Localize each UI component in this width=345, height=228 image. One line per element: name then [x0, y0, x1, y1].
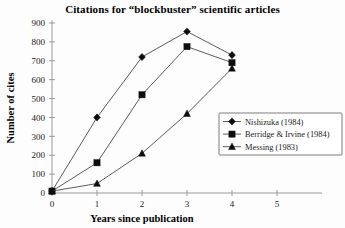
data-point-diamond [184, 28, 191, 35]
x-tick-label: 5 [275, 199, 280, 209]
data-point-square [94, 160, 100, 166]
y-tick-label: 600 [32, 75, 46, 85]
x-tick-label: 1 [95, 199, 100, 209]
data-point-square [139, 92, 145, 98]
y-tick-label: 500 [32, 94, 46, 104]
chart-figure: Citations for “blockbuster” scientific a… [0, 0, 345, 228]
x-tick-label: 3 [185, 199, 190, 209]
y-tick-label: 0 [41, 188, 46, 198]
data-series-group [49, 28, 236, 195]
legend-label-0: Nishizuka (1984) [245, 118, 304, 127]
y-axis-title: Number of cites [5, 73, 16, 144]
data-point-square [184, 44, 190, 50]
x-tick-label: 2 [140, 199, 145, 209]
y-tick-label: 100 [32, 169, 46, 179]
y-tick-label: 300 [32, 132, 46, 142]
data-point-triangle [94, 180, 101, 186]
series-line-square [52, 47, 232, 192]
x-tick-label: 0 [50, 199, 55, 209]
y-axis: 0100200300400500600700800900 [32, 18, 56, 198]
legend-label-1: Berridge & Irvine (1984) [245, 130, 330, 139]
chart-legend: Nishizuka (1984)Berridge & Irvine (1984)… [219, 113, 342, 155]
data-point-diamond [229, 52, 236, 59]
x-tick-label: 4 [230, 199, 235, 209]
x-axis-title: Years since publication [90, 213, 193, 224]
y-tick-label: 700 [32, 56, 46, 66]
legend-marker-square [229, 131, 235, 137]
y-tick-label: 400 [32, 113, 46, 123]
legend-label-2: Messing (1983) [245, 143, 298, 152]
y-tick-label: 900 [32, 18, 46, 28]
y-tick-label: 200 [32, 150, 46, 160]
series-line-triangle [52, 68, 232, 191]
y-tick-label: 800 [32, 37, 46, 47]
x-axis: 012345 [50, 190, 322, 209]
chart-plot-area: 0100200300400500600700800900 012345 Nish… [0, 0, 345, 228]
